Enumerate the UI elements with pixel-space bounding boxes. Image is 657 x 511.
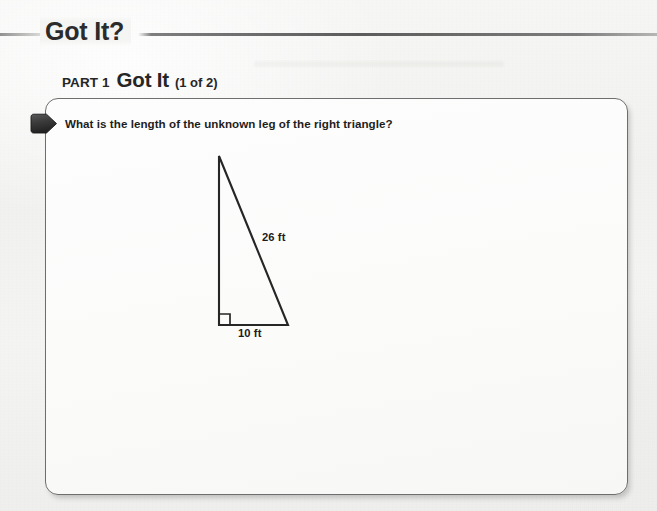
- hypotenuse-label: 26 ft: [262, 231, 286, 243]
- right-angle-square: [219, 314, 230, 325]
- part-title: Got It: [117, 68, 169, 92]
- right-triangle-diagram: 26 ft 10 ft: [196, 146, 326, 351]
- question-prompt: What is the length of the unknown leg of…: [65, 117, 393, 130]
- part-label: PART 1: [62, 75, 110, 90]
- base-label: 10 ft: [238, 327, 262, 339]
- triangle-svg: [196, 146, 326, 351]
- part-count: (1 of 2): [175, 75, 218, 90]
- question-card: [45, 98, 628, 495]
- page-title: Got It?: [40, 16, 131, 46]
- pentagon-bullet-marker: [29, 111, 60, 136]
- part-heading: PART 1 Got It (1 of 2): [62, 68, 218, 92]
